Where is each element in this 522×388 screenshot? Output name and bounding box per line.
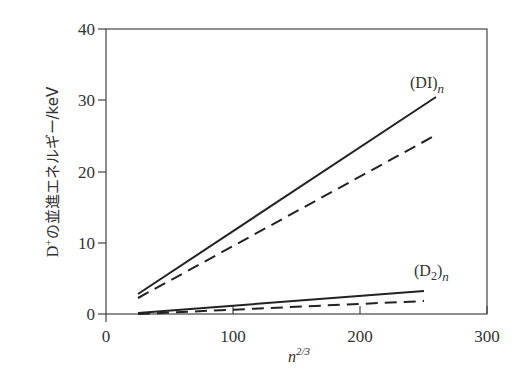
chart: 0 10 20 30 40 0 100 200 300 n2/3 D+の並進エネ…	[0, 0, 522, 388]
d2-solid-line	[138, 291, 424, 313]
x-tick-300: 300	[474, 327, 500, 346]
y-tick-40: 40	[78, 20, 95, 39]
x-tick-labels: 0 100 200 300	[102, 327, 500, 346]
x-tick-100: 100	[220, 327, 246, 346]
y-axis-label: D+の並進エネルギー/keV	[42, 86, 62, 257]
y-tick-0: 0	[87, 305, 96, 324]
d2-label: (D2)n	[414, 262, 449, 284]
di-label: (DI)n	[410, 74, 444, 96]
y-tick-10: 10	[78, 234, 95, 253]
y-tick-labels: 0 10 20 30 40	[78, 20, 95, 324]
y-tick-30: 30	[78, 91, 95, 110]
x-tick-0: 0	[102, 327, 111, 346]
di-dashed-line	[138, 135, 436, 298]
x-axis-label: n2/3	[288, 345, 311, 365]
x-tick-200: 200	[347, 327, 373, 346]
di-solid-line	[138, 97, 436, 294]
y-tick-20: 20	[78, 163, 95, 182]
